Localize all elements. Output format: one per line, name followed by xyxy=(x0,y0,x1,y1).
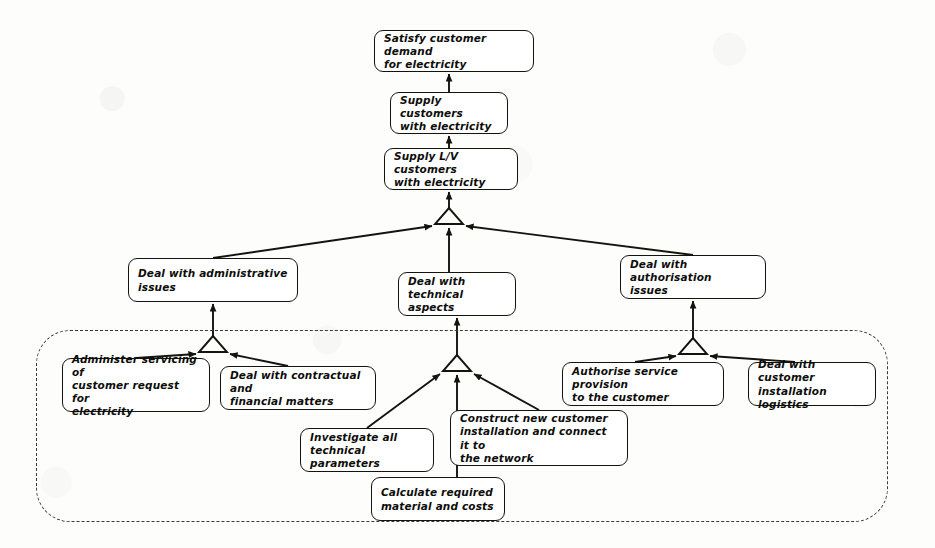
goal-node-deal-contractual-financial[interactable]: Deal with contractual andfinancial matte… xyxy=(220,366,376,410)
diagram-canvas: Satisfy customer demandfor electricitySu… xyxy=(0,0,935,548)
goal-node-label: Deal with authorisationissues xyxy=(630,258,756,298)
goal-node-deal-technical-aspects[interactable]: Deal with technicalaspects xyxy=(398,272,516,316)
goal-node-label: Construct new customerinstallation and c… xyxy=(460,412,618,465)
goal-node-line: Supply L/V customers xyxy=(394,150,508,176)
goal-node-line: Deal with contractual and xyxy=(230,369,366,395)
goal-node-line: to the customer xyxy=(572,391,714,404)
goal-node-label: Deal with customerinstallation logistics xyxy=(758,358,866,411)
goal-node-line: Calculate required xyxy=(381,486,494,499)
goal-node-line: Deal with authorisation xyxy=(630,258,756,284)
refinement-junction-tech xyxy=(443,355,471,371)
goal-node-deal-authorisation-issues[interactable]: Deal with authorisationissues xyxy=(620,255,766,299)
goal-node-supply-lv-customers[interactable]: Supply L/V customerswith electricity xyxy=(384,148,518,190)
edge-authorisation-to-junction-lv xyxy=(466,226,693,255)
goal-node-line: with electricity xyxy=(400,120,498,133)
goal-node-line: Authorise service provision xyxy=(572,365,714,391)
goal-node-label: Deal with contractual andfinancial matte… xyxy=(230,369,366,409)
goal-node-label: Administer servicing ofcustomer request … xyxy=(72,353,200,419)
goal-node-label: Deal with technicalaspects xyxy=(408,275,506,315)
edge-investigate-to-junction-tech xyxy=(367,374,440,428)
goal-node-line: material and costs xyxy=(381,500,494,513)
goal-node-line: aspects xyxy=(408,301,506,314)
goal-node-line: the network xyxy=(460,452,618,465)
goal-node-line: technical parameters xyxy=(310,444,424,470)
goal-node-authorise-service-provision[interactable]: Authorise service provisionto the custom… xyxy=(562,362,724,406)
refinement-junction-admin xyxy=(199,336,227,352)
refinement-junction-auth xyxy=(679,338,707,354)
goal-node-label: Supply L/V customerswith electricity xyxy=(394,150,508,190)
edge-admin-to-junction-lv xyxy=(213,226,432,258)
goal-node-label: Deal with administrativeissues xyxy=(138,267,288,293)
goal-node-supply-customers[interactable]: Supply customerswith electricity xyxy=(390,92,508,134)
goal-node-line: Deal with technical xyxy=(408,275,506,301)
goal-node-line: Deal with customer xyxy=(758,358,866,384)
goal-node-construct-new-installation[interactable]: Construct new customerinstallation and c… xyxy=(450,410,628,466)
goal-node-calculate-required-material[interactable]: Calculate requiredmaterial and costs xyxy=(371,477,505,521)
goal-node-line: Investigate all xyxy=(310,431,424,444)
goal-node-label: Investigate alltechnical parameters xyxy=(310,431,424,471)
goal-node-label: Satisfy customer demandfor electricity xyxy=(384,32,524,72)
goal-node-line: issues xyxy=(138,281,288,294)
goal-node-line: Satisfy customer demand xyxy=(384,32,524,58)
goal-node-line: installation and connect it to xyxy=(460,425,618,451)
goal-node-line: financial matters xyxy=(230,395,366,408)
goal-node-administer-servicing[interactable]: Administer servicing ofcustomer request … xyxy=(62,358,210,412)
goal-node-line: Deal with administrative xyxy=(138,267,288,280)
goal-node-deal-customer-installation-logistics[interactable]: Deal with customerinstallation logistics xyxy=(748,362,876,406)
goal-node-line: issues xyxy=(630,284,756,297)
goal-node-line: electricity xyxy=(72,405,200,418)
goal-node-line: with electricity xyxy=(394,176,508,189)
goal-node-line: Administer servicing of xyxy=(72,353,200,379)
goal-node-label: Calculate requiredmaterial and costs xyxy=(381,486,494,512)
goal-node-line: Construct new customer xyxy=(460,412,618,425)
goal-node-line: for electricity xyxy=(384,58,524,71)
goal-node-deal-administrative-issues[interactable]: Deal with administrativeissues xyxy=(128,258,298,302)
goal-node-line: Supply customers xyxy=(400,94,498,120)
goal-node-label: Authorise service provisionto the custom… xyxy=(572,365,714,405)
goal-node-investigate-technical-parameters[interactable]: Investigate alltechnical parameters xyxy=(300,428,434,472)
goal-node-line: installation logistics xyxy=(758,385,866,411)
refinement-junction-lv xyxy=(435,208,463,224)
edge-contractual-to-junction-admin xyxy=(230,354,288,366)
goal-node-line: customer request for xyxy=(72,379,200,405)
edge-construct-to-junction-tech xyxy=(474,374,539,410)
goal-node-satisfy-customer-demand[interactable]: Satisfy customer demandfor electricity xyxy=(374,30,534,72)
goal-node-label: Supply customerswith electricity xyxy=(400,94,498,134)
